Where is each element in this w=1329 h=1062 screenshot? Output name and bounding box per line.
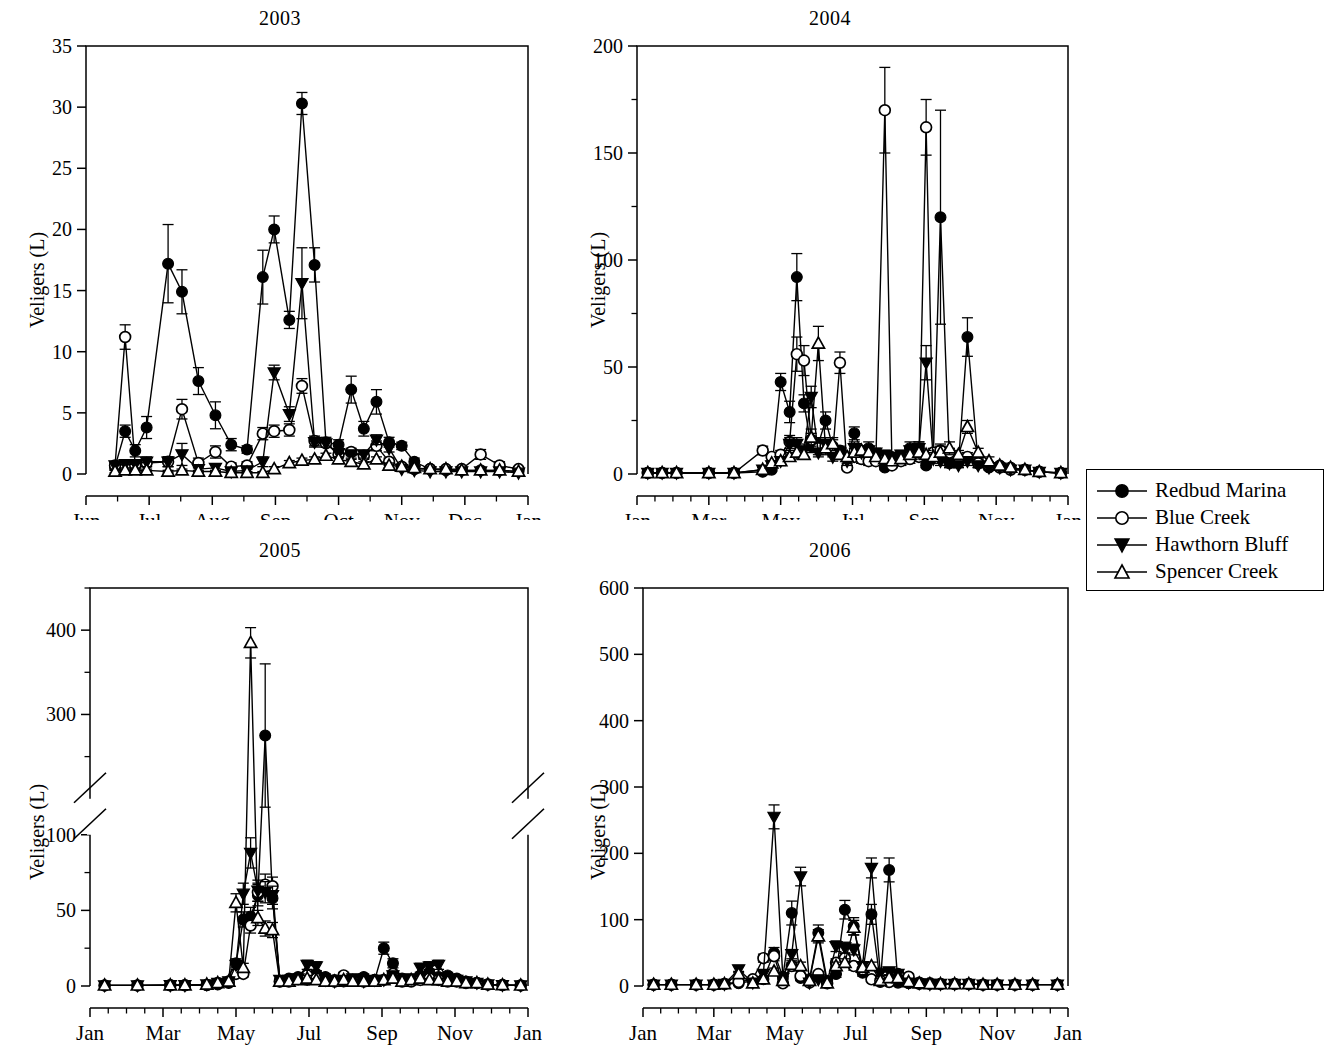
series-redbud-marina	[110, 92, 524, 476]
data-point-filled-down-triangle	[768, 812, 780, 823]
data-point-open-circle	[297, 381, 308, 392]
series-layer	[99, 628, 527, 992]
data-point-filled-down-triangle	[268, 368, 280, 379]
x-tick-label: Jan	[514, 1021, 542, 1045]
x-tick-label: Jan	[629, 1021, 657, 1045]
data-point-filled-circle	[257, 272, 268, 283]
series-layer	[648, 805, 1064, 991]
x-tick-label: Sep	[909, 509, 941, 520]
legend-item-redbud-marina: Redbud Marina	[1095, 477, 1313, 504]
data-point-open-circle	[120, 332, 131, 343]
series-layer	[109, 92, 525, 479]
series-line	[648, 110, 1061, 473]
y-tick-label: 500	[599, 643, 629, 665]
axis-frame	[637, 46, 1068, 474]
series-redbud-marina	[99, 664, 526, 991]
x-tick-label: May	[761, 509, 800, 520]
site-legend: Redbud Marina Blue Creek Hawthorn Bluff …	[1086, 469, 1324, 591]
data-point-filled-circle	[242, 444, 253, 455]
y-tick-label: 200	[599, 842, 629, 864]
x-tick-label: Jan	[514, 509, 542, 520]
data-point-filled-circle	[297, 98, 308, 109]
plot-area-2003: JunJulAugSepOctNovDecJan05101520253035	[0, 8, 560, 520]
y-tick-label: 150	[593, 142, 623, 164]
x-tick-label: Nov	[979, 1021, 1016, 1045]
data-point-filled-down-triangle	[865, 863, 877, 874]
panel-2005: 2005 Veligers (L) JanMarMayJulSepNovJan0…	[0, 540, 560, 1052]
data-point-open-up-triangle	[245, 636, 257, 647]
plot-area-2006: JanMarMayJulSepNovJan0100200300400500600	[565, 540, 1095, 1052]
data-point-filled-circle	[141, 422, 152, 433]
plot-area-2005: JanMarMayJulSepNovJan050100300400	[0, 540, 560, 1052]
data-point-open-circle	[177, 404, 188, 415]
data-point-filled-circle	[260, 730, 271, 741]
legend-item-spencer-creek: Spencer Creek	[1095, 558, 1313, 585]
legend-item-blue-creek: Blue Creek	[1095, 504, 1313, 531]
series-blue-creek	[110, 325, 524, 475]
x-tick-label: Mar	[146, 1021, 181, 1045]
y-tick-label: 300	[46, 703, 76, 725]
legend-label-blue-creek: Blue Creek	[1155, 507, 1250, 528]
series-hawthorn-bluff	[99, 838, 527, 992]
x-tick-label: Jul	[297, 1021, 322, 1045]
y-tick-label: 0	[62, 463, 72, 485]
x-tick-label: Nov	[384, 509, 421, 520]
data-point-filled-circle	[309, 259, 320, 270]
data-point-filled-circle	[935, 212, 946, 223]
data-point-filled-circle	[358, 423, 369, 434]
x-tick-label: Jul	[843, 1021, 868, 1045]
x-tick-label: May	[765, 1021, 804, 1045]
data-point-filled-circle	[388, 958, 399, 969]
series-spencer-creek	[642, 326, 1067, 477]
series-layer	[642, 67, 1067, 479]
y-tick-label: 0	[619, 975, 629, 997]
series-line	[115, 103, 518, 471]
y-tick-label: 400	[599, 710, 629, 732]
axis-break-mask	[87, 799, 94, 835]
y-tick-label: 15	[52, 280, 72, 302]
x-tick-label: Jun	[71, 509, 101, 520]
data-point-open-circle	[879, 105, 890, 116]
x-tick-label: Jul	[137, 509, 162, 520]
panel-2003: 2003 Veligers (L) JunJulAugSepOctNovDecJ…	[0, 8, 560, 520]
x-tick-label: Dec	[448, 509, 482, 520]
plot-area-2004: JanMarMayJulSepNovJan050100150200	[565, 8, 1095, 520]
data-point-open-circle	[921, 122, 932, 133]
data-point-filled-circle	[284, 315, 295, 326]
y-tick-label: 100	[46, 824, 76, 846]
x-tick-label: Sep	[911, 1021, 943, 1045]
x-tick-label: Oct	[323, 509, 353, 520]
data-point-open-circle	[835, 357, 846, 368]
y-tick-label: 35	[52, 35, 72, 57]
data-point-open-circle	[284, 425, 295, 436]
data-point-filled-circle	[884, 865, 895, 876]
data-point-filled-circle	[839, 904, 850, 915]
axis-break-mask	[525, 799, 532, 835]
legend-label-spencer-creek: Spencer Creek	[1155, 561, 1278, 582]
data-point-filled-circle	[371, 396, 382, 407]
series-blue-creek	[99, 874, 526, 991]
data-point-filled-down-triangle	[296, 279, 308, 290]
data-point-filled-circle	[775, 377, 786, 388]
panel-2004: 2004 Veligers (L) JanMarMayJulSepNovJan0…	[565, 8, 1095, 520]
legend-key-open-up-triangle-icon	[1095, 561, 1149, 583]
data-point-filled-circle	[346, 384, 357, 395]
data-point-filled-down-triangle	[920, 358, 932, 369]
data-point-filled-circle	[849, 428, 860, 439]
x-tick-label: Jan	[1054, 1021, 1082, 1045]
x-tick-label: Aug	[194, 509, 231, 520]
legend-key-open-circle-icon	[1095, 507, 1149, 529]
data-point-open-circle	[758, 953, 769, 964]
data-point-open-circle	[210, 447, 221, 458]
series-line	[105, 643, 521, 986]
data-point-filled-circle	[163, 258, 174, 269]
legend-item-hawthorn-bluff: Hawthorn Bluff	[1095, 531, 1313, 558]
data-point-filled-circle	[820, 415, 831, 426]
y-tick-label: 0	[613, 463, 623, 485]
data-point-filled-circle	[269, 224, 280, 235]
data-point-filled-circle	[396, 440, 407, 451]
series-spencer-creek	[99, 628, 527, 990]
panel-2006: 2006 Veligers (L) JanMarMayJulSepNovJan0…	[565, 540, 1095, 1052]
series-redbud-marina	[642, 110, 1066, 478]
data-point-filled-down-triangle	[383, 444, 395, 455]
